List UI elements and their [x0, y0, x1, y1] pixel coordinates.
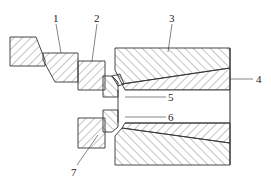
die-block-upper	[115, 48, 230, 90]
part-2	[78, 61, 105, 90]
label-3: 3	[169, 12, 175, 24]
die-block-lower	[115, 123, 230, 165]
cross-section-diagram: 1 2 3 4 5 6 7	[0, 0, 271, 186]
channel	[118, 90, 230, 123]
part-7	[78, 118, 105, 148]
label-4: 4	[256, 73, 262, 85]
label-7: 7	[71, 166, 77, 178]
left-block	[10, 37, 45, 66]
part-1	[43, 53, 78, 82]
label-6: 6	[168, 111, 174, 123]
label-2: 2	[94, 12, 100, 24]
label-5: 5	[168, 91, 174, 103]
label-1: 1	[53, 12, 59, 24]
